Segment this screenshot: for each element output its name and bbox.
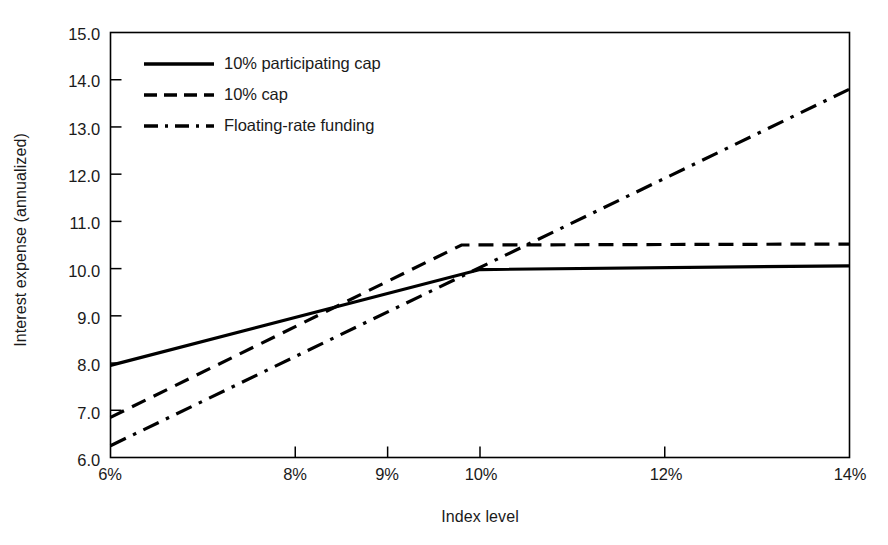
legend-label: Floating-rate funding [215, 116, 374, 135]
legend-swatch-dashdot-icon [143, 118, 215, 134]
legend: 10% participating cap 10% cap Floating-r… [143, 48, 473, 141]
legend-swatch-dashed-icon [143, 87, 215, 103]
chart-figure: Interest expense (annualized) 15.0 14.0 … [0, 0, 888, 545]
legend-label: 10% cap [215, 85, 288, 104]
legend-item-cap: 10% cap [143, 79, 473, 110]
data-series-group [111, 89, 850, 446]
x-tick-marks [295, 447, 665, 458]
legend-label: 10% participating cap [215, 54, 381, 73]
legend-item-floating-rate: Floating-rate funding [143, 110, 473, 141]
series-line [111, 266, 850, 366]
legend-swatch-solid-icon [143, 56, 215, 72]
legend-item-participating-cap: 10% participating cap [143, 48, 473, 79]
y-tick-marks [111, 80, 122, 411]
